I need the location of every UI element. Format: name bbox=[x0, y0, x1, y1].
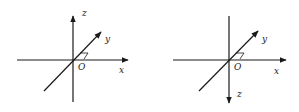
y-label: y bbox=[104, 34, 111, 44]
right-angle-mark bbox=[80, 53, 88, 59]
y-label: y bbox=[261, 34, 268, 44]
origin-label: O bbox=[78, 62, 86, 72]
z-label: z bbox=[81, 8, 87, 18]
x-label: x bbox=[119, 65, 124, 75]
z-label: z bbox=[236, 89, 242, 99]
x-label: x bbox=[274, 66, 279, 76]
origin-label: O bbox=[234, 62, 242, 72]
right-angle-mark bbox=[236, 53, 244, 59]
left-coordinate-system: z y x O bbox=[17, 8, 128, 102]
diagram-canvas: z y x O y x O z bbox=[0, 0, 299, 112]
right-coordinate-system: y x O z bbox=[173, 16, 286, 103]
